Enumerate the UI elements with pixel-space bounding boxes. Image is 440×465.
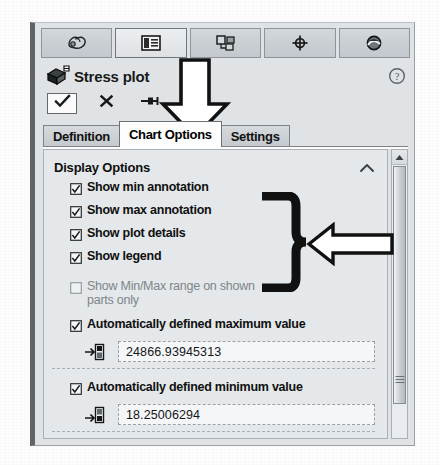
assembly-icon xyxy=(215,34,237,52)
tab-chart-options[interactable]: Chart Options xyxy=(119,121,222,147)
chart-tabstrip: Definition Chart Options Settings xyxy=(43,123,408,147)
minimum-value-row: 18.25006294 xyxy=(84,404,387,425)
maximum-value-row: 24866.93945313 xyxy=(84,341,387,362)
option-show-minmax-range-shown-parts: Show Min/Max range on shown parts only xyxy=(70,278,387,307)
display-options-header[interactable]: Display Options xyxy=(54,160,387,175)
option-show-max-annotation[interactable]: Show max annotation xyxy=(70,202,387,223)
option-label: Show max annotation xyxy=(87,202,211,217)
property-manager-panel: Stress plot ? xyxy=(30,22,415,446)
scanned-page: Stress plot ? xyxy=(0,0,440,465)
option-show-plot-details[interactable]: Show plot details xyxy=(70,225,387,246)
tab-chart-options-label: Chart Options xyxy=(129,127,212,142)
checkbox-unchecked-disabled xyxy=(70,280,82,298)
option-label: Automatically defined minimum value xyxy=(87,379,303,394)
tab-definition-label: Definition xyxy=(53,129,110,144)
maximum-value-input[interactable]: 24866.93945313 xyxy=(118,341,375,362)
list-details-icon xyxy=(140,34,162,52)
option-label: Show min annotation xyxy=(87,179,209,194)
divider xyxy=(52,431,375,433)
option-label: Automatically defined maximum value xyxy=(87,316,305,331)
option-show-legend[interactable]: Show legend xyxy=(70,248,387,269)
tab-properties[interactable] xyxy=(41,28,112,58)
checkbox-checked[interactable] xyxy=(70,204,82,222)
appearance-icon xyxy=(363,34,385,52)
option-label: Show plot details xyxy=(87,225,186,240)
crosshair-icon xyxy=(289,34,311,52)
min-value-icon xyxy=(84,405,110,425)
display-options-heading: Display Options xyxy=(54,160,150,175)
tab-definition[interactable]: Definition xyxy=(43,125,120,147)
stress-plot-icon xyxy=(45,65,71,87)
scrollbar-thumb[interactable] xyxy=(393,166,406,404)
checkbox-checked[interactable] xyxy=(70,181,82,199)
cancel-button[interactable] xyxy=(91,93,121,114)
tab-assembly[interactable] xyxy=(190,28,261,58)
tab-settings-label: Settings xyxy=(231,129,280,144)
pushpin-icon xyxy=(140,94,160,112)
checkbox-checked[interactable] xyxy=(70,381,82,399)
option-auto-maximum-value[interactable]: Automatically defined maximum value xyxy=(70,316,387,337)
properties-icon xyxy=(66,34,88,52)
checkbox-checked[interactable] xyxy=(70,318,82,336)
scrollbar-grip-icon xyxy=(395,376,404,385)
checkbox-checked[interactable] xyxy=(70,227,82,245)
page-title: Stress plot xyxy=(74,68,149,85)
help-question-icon[interactable]: ? xyxy=(388,67,406,85)
panel-action-row xyxy=(47,91,165,115)
checkbox-checked[interactable] xyxy=(70,250,82,268)
chevron-up-icon[interactable] xyxy=(359,162,375,174)
tab-list-details[interactable] xyxy=(115,28,186,58)
minimum-value-input[interactable]: 18.25006294 xyxy=(118,404,375,425)
option-label: Show legend xyxy=(87,248,161,263)
scroll-up-arrow-icon[interactable] xyxy=(392,150,407,165)
property-manager-icon-tabbar xyxy=(41,28,410,58)
panel-title-row: Stress plot ? xyxy=(45,63,406,89)
option-show-min-annotation[interactable]: Show min annotation xyxy=(70,179,387,200)
vertical-scrollbar[interactable] xyxy=(391,149,408,439)
option-label: Show Min/Max range on shown parts only xyxy=(87,278,262,307)
accept-ok-button[interactable] xyxy=(47,93,77,114)
pin-button[interactable] xyxy=(135,93,165,114)
option-auto-minimum-value[interactable]: Automatically defined minimum value xyxy=(70,379,387,400)
checkmark-icon xyxy=(54,94,71,112)
max-value-icon xyxy=(84,342,110,362)
svg-text:?: ? xyxy=(395,71,400,82)
tab-appearance[interactable] xyxy=(339,28,410,58)
tab-crosshair[interactable] xyxy=(264,28,335,58)
tab-settings[interactable]: Settings xyxy=(221,125,290,147)
close-x-icon xyxy=(99,94,114,112)
divider xyxy=(52,368,375,370)
chart-options-content: Display Options Show min annotation xyxy=(43,149,388,439)
